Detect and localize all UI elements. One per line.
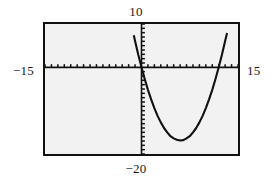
x-max-label: 15 bbox=[247, 64, 260, 77]
y-max-label: 10 bbox=[0, 5, 272, 18]
plot-canvas bbox=[45, 24, 238, 154]
calculator-viewport bbox=[43, 22, 240, 156]
x-min-label: −15 bbox=[13, 64, 34, 77]
calculator-graph-screenshot: 10 −15 15 −20 bbox=[0, 0, 272, 182]
y-min-label: −20 bbox=[0, 162, 272, 175]
y-axis bbox=[142, 24, 145, 154]
parabola-curve bbox=[134, 33, 227, 140]
